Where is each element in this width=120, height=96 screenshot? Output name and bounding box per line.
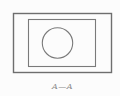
hole-circle-outline	[42, 28, 72, 58]
section-label: A—A	[13, 82, 112, 92]
inner-rectangle-outline	[29, 20, 96, 67]
drawing-canvas: A—A	[0, 0, 120, 96]
